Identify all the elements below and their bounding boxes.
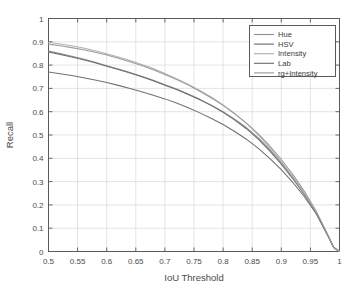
- legend-label-intensity: Intensity: [278, 49, 306, 58]
- y-axis-label: Recall: [4, 122, 15, 148]
- legend-label-hue: Hue: [278, 30, 292, 39]
- x-tick-label: 1: [337, 257, 342, 266]
- x-tick-label: 0.65: [128, 257, 144, 266]
- y-tick-label: 0.5: [32, 131, 44, 140]
- x-tick-label: 0.95: [303, 257, 319, 266]
- x-tick-label: 0.6: [101, 257, 113, 266]
- y-tick-label: 0.8: [32, 61, 44, 70]
- x-tick-label: 0.9: [276, 257, 288, 266]
- figure-container: 0.50.550.60.650.70.750.80.850.90.951 00.…: [0, 0, 361, 290]
- y-tick-label: 0.1: [32, 224, 44, 233]
- y-tick-label: 0.6: [32, 108, 44, 117]
- x-tick-label: 0.5: [43, 257, 55, 266]
- y-tick-label: 0.9: [32, 38, 44, 47]
- x-tick-label: 0.7: [159, 257, 171, 266]
- x-tick-label: 0.75: [186, 257, 202, 266]
- x-tick-label: 0.85: [244, 257, 260, 266]
- x-axis-label: IoU Threshold: [164, 272, 224, 283]
- y-tick-label: 0.2: [32, 201, 44, 210]
- y-tick-label: 1: [39, 15, 44, 24]
- y-tick-label: 0.3: [32, 178, 44, 187]
- legend-label-lab: Lab: [278, 59, 291, 68]
- legend-label-hsv: HSV: [278, 40, 295, 49]
- legend-label-rg-intensity: rg+Intensity: [278, 69, 318, 78]
- x-tick-label: 0.8: [218, 257, 230, 266]
- y-tick-label: 0: [39, 248, 44, 257]
- x-tick-label: 0.55: [70, 257, 86, 266]
- y-tick-label: 0.7: [32, 84, 44, 93]
- y-tick-label: 0.4: [32, 154, 44, 163]
- legend: HueHSVIntensityLabrg+Intensity: [250, 26, 336, 78]
- recall-vs-iou-line-chart: 0.50.550.60.650.70.750.80.850.90.951 00.…: [0, 0, 361, 290]
